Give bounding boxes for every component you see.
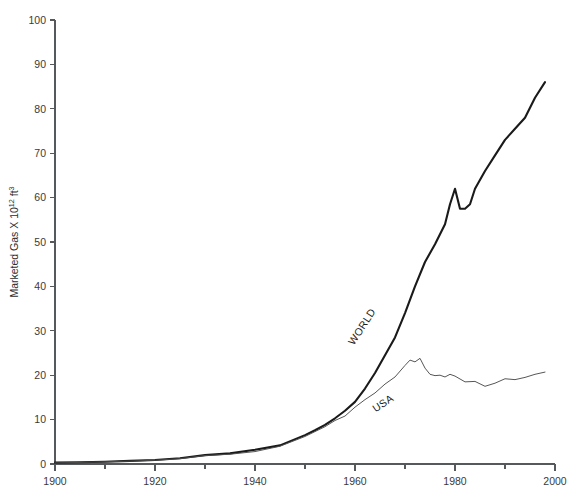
series-label-world: WORLD: [345, 306, 377, 347]
data-series-group: [55, 82, 545, 463]
x-tick-label: 1960: [343, 475, 367, 487]
y-tick-label: 30: [34, 325, 46, 337]
y-axis-title-unit: ft: [8, 190, 20, 199]
y-tick-label: 50: [34, 236, 46, 248]
x-tick-label: 2000: [543, 475, 567, 487]
y-tick-label: 100: [28, 14, 46, 26]
x-tick-label: 1920: [143, 475, 167, 487]
y-axis-title: Marketed Gas X 1012 ft3: [7, 186, 20, 297]
series-line-world: [55, 82, 545, 463]
y-tick-label: 20: [34, 369, 46, 381]
y-axis-title-unit-exponent: 3: [7, 186, 16, 190]
y-axis-title-text: Marketed Gas X 1012 ft3: [7, 186, 20, 297]
series-annotations: WORLDUSA: [345, 306, 395, 414]
x-tick-label: 1900: [43, 475, 67, 487]
x-tick-label: 1940: [243, 475, 267, 487]
y-axis: 0102030405060708090100: [28, 14, 55, 470]
y-tick-label: 10: [34, 413, 46, 425]
chart-canvas: 0102030405060708090100 19001920194019601…: [0, 0, 580, 504]
x-tick-label: 1980: [443, 475, 467, 487]
gas-production-chart-figure: 0102030405060708090100 19001920194019601…: [0, 0, 580, 504]
x-axis: 190019201940196019802000: [43, 464, 567, 487]
series-line-usa: [55, 358, 545, 463]
y-tick-label: 0: [40, 458, 46, 470]
y-tick-label: 90: [34, 58, 46, 70]
y-axis-title-main: Marketed Gas X 10: [8, 207, 20, 298]
y-tick-label: 70: [34, 147, 46, 159]
y-tick-label: 60: [34, 191, 46, 203]
series-label-usa: USA: [370, 392, 396, 414]
y-tick-label: 80: [34, 103, 46, 115]
y-axis-title-exponent: 12: [7, 199, 16, 207]
y-tick-label: 40: [34, 280, 46, 292]
